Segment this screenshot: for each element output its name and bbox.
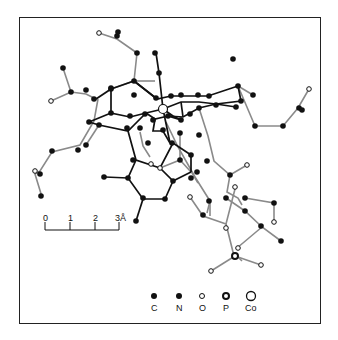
- oxygen-atoms: [33, 31, 312, 274]
- legend-c-label: C: [151, 303, 158, 313]
- legend-co-label: Co: [245, 303, 257, 313]
- scale-tick-3: 3Å: [115, 213, 126, 223]
- ring-bonds: [89, 53, 241, 221]
- legend-n-label: N: [176, 303, 183, 313]
- scale-tick-2: 2: [93, 213, 98, 223]
- legend-p-icon: [223, 293, 229, 299]
- legend-o-label: O: [199, 303, 206, 313]
- legend-p-label: P: [223, 303, 229, 313]
- scale-tick-1: 1: [68, 213, 73, 223]
- legend-n-icon: [176, 293, 182, 299]
- scale-bar: 0 1 2 3Å: [43, 213, 126, 230]
- legend: C N O P Co: [151, 292, 257, 314]
- carbon-nitrogen-atoms: [37, 29, 305, 244]
- molecule-diagram: 0 1 2 3Å C N O P Co: [0, 0, 338, 340]
- cobalt-atom: [159, 105, 168, 114]
- scale-tick-0: 0: [43, 213, 48, 223]
- legend-o-icon: [200, 294, 205, 299]
- legend-co-icon: [247, 292, 256, 301]
- legend-c-icon: [151, 293, 157, 299]
- phosphorus-atom: [232, 253, 238, 259]
